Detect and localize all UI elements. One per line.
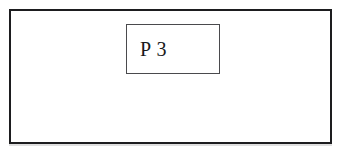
diagram-canvas: P 3 — [0, 0, 348, 155]
outer-boundary-rectangle: P 3 — [9, 9, 332, 144]
block-p3: P 3 — [126, 24, 220, 74]
block-p3-label: P 3 — [127, 39, 167, 59]
